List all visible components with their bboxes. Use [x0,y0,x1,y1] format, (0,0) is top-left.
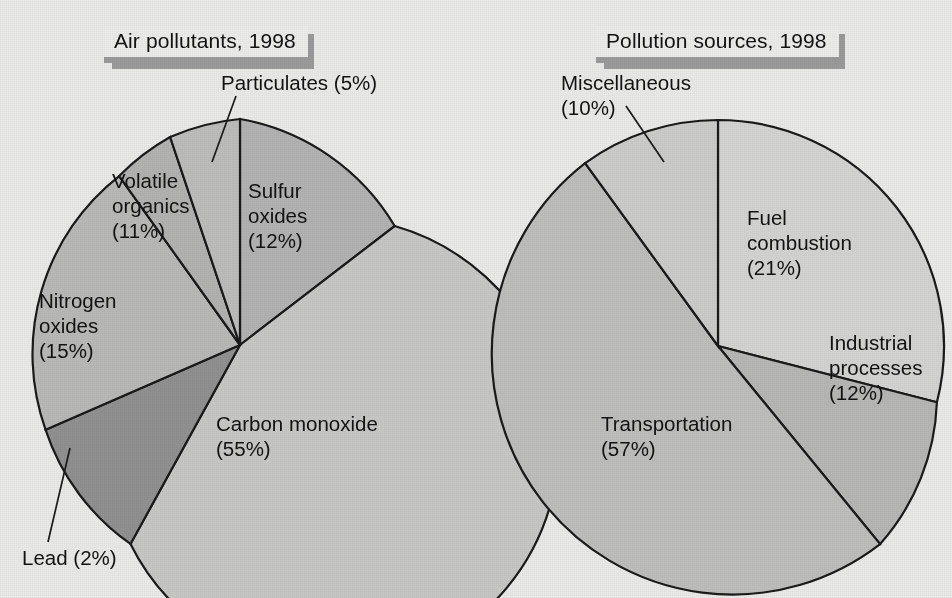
pie-label-miscellaneous: Miscellaneous (10%) [561,70,691,120]
pie-label-sulfur-oxides: Sulfur oxides (12%) [248,178,307,253]
pie-label-transportation: Transportation (57%) [601,411,732,461]
pie-label-fuel-combustion: Fuel combustion (21%) [747,205,852,280]
pie-label-nitrogen-oxides: Nitrogen oxides (15%) [39,288,117,363]
pie-label-carbon-monoxide: Carbon monoxide (55%) [216,411,378,461]
chart-title-air-pollutants: Air pollutants, 1998 [104,26,308,63]
figure-root: Air pollutants, 1998 Pollution sources, … [0,0,952,598]
pie-label-industrial-processes: Industrial processes (12%) [829,330,922,405]
pie-chart-pollution-sources [0,0,952,598]
pie-label-particulates: Particulates (5%) [221,70,377,95]
pie-label-volatile-organics: Volatile organics (11%) [112,168,190,243]
pie-label-lead: Lead (2%) [22,545,117,570]
chart-title-pollution-sources: Pollution sources, 1998 [596,26,839,63]
